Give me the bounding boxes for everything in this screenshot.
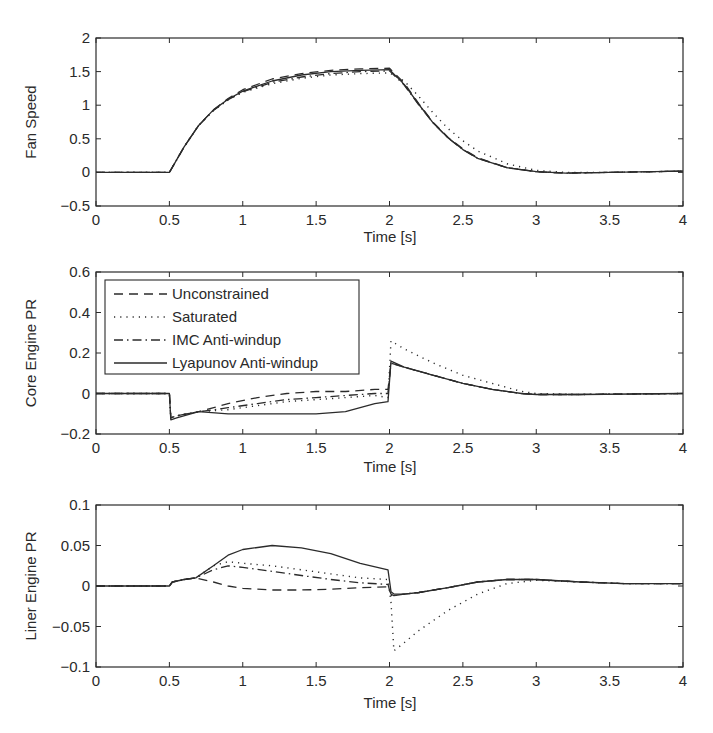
x-tick-label: 0 [92, 672, 100, 689]
x-tick-label: 4 [679, 211, 687, 228]
x-tick-label: 0 [92, 439, 100, 456]
x-tick-label: 2 [385, 672, 393, 689]
x-tick-label: 2.5 [452, 439, 473, 456]
series-line-imc-anti-windup [96, 71, 683, 173]
legend-label-imc: IMC Anti-windup [172, 331, 281, 348]
x-tick-label: 1 [239, 672, 247, 689]
y-tick-label: 0.5 [69, 130, 90, 147]
subplot-core-engine-pr: 00.511.522.533.54−0.200.20.40.6 Core Eng… [22, 263, 687, 475]
y-tick-label: −0.05 [52, 618, 90, 635]
y-tick-label: −0.1 [60, 658, 90, 675]
y-tick-label: 0 [82, 385, 90, 402]
legend-label-lyapunov: Lyapunov Anti-windup [172, 354, 318, 371]
y-tick-label: 0.05 [61, 537, 90, 554]
x-tick-label: 1.5 [306, 211, 327, 228]
x-axis-label: Time [s] [364, 458, 417, 475]
x-tick-label: 0 [92, 211, 100, 228]
legend: Unconstrained Saturated IMC Anti-windup … [105, 280, 359, 374]
series-line-lyapunov-anti-windup [96, 70, 683, 174]
legend-label-unconstrained: Unconstrained [172, 285, 269, 302]
x-axis-label: Time [s] [364, 694, 417, 711]
y-axis-label: Core Engine PR [22, 299, 39, 408]
legend-label-saturated: Saturated [172, 308, 237, 325]
x-tick-label: 3 [532, 439, 540, 456]
x-tick-label: 0.5 [159, 211, 180, 228]
figure-canvas: 00.511.522.533.54−0.500.511.52 Fan Speed… [0, 0, 713, 733]
x-axis-label: Time [s] [364, 228, 417, 245]
x-tick-label: 0.5 [159, 439, 180, 456]
y-tick-label: 0 [82, 577, 90, 594]
x-tick-label: 4 [679, 672, 687, 689]
series-line-saturated [96, 562, 683, 651]
x-tick-label: 2 [385, 439, 393, 456]
x-tick-label: 3 [532, 211, 540, 228]
axis-ticks: 00.511.522.533.54−0.1−0.0500.050.1 [52, 496, 687, 689]
x-tick-label: 3 [532, 672, 540, 689]
x-tick-label: 3.5 [599, 211, 620, 228]
y-tick-label: 1.5 [69, 63, 90, 80]
series-line-lyapunov-anti-windup [96, 546, 683, 595]
series-line-saturated [96, 73, 683, 172]
y-tick-label: −0.2 [60, 425, 90, 442]
y-tick-label: 0.6 [69, 263, 90, 280]
plot-lines [96, 68, 683, 173]
axis-ticks: 00.511.522.533.54−0.500.511.52 [60, 29, 687, 228]
subplot-fan-speed: 00.511.522.533.54−0.500.511.52 Fan Speed… [22, 29, 687, 245]
series-line-unconstrained [96, 68, 683, 173]
y-tick-label: 0.4 [69, 304, 90, 321]
x-tick-label: 2.5 [452, 672, 473, 689]
x-tick-label: 3.5 [599, 672, 620, 689]
x-tick-label: 3.5 [599, 439, 620, 456]
subplot-liner-engine-pr: 00.511.522.533.54−0.1−0.0500.050.1 Liner… [22, 496, 687, 711]
y-axis-label: Fan Speed [22, 85, 39, 158]
plot-frame [96, 505, 683, 667]
x-tick-label: 1 [239, 211, 247, 228]
plot-frame [96, 38, 683, 206]
x-tick-label: 1 [239, 439, 247, 456]
x-tick-label: 2 [385, 211, 393, 228]
y-tick-label: 0 [82, 163, 90, 180]
y-tick-label: 0.1 [69, 496, 90, 513]
y-tick-label: 1 [82, 96, 90, 113]
x-tick-label: 0.5 [159, 672, 180, 689]
y-tick-label: 2 [82, 29, 90, 46]
x-tick-label: 2.5 [452, 211, 473, 228]
plot-lines [96, 546, 683, 651]
x-tick-label: 1.5 [306, 439, 327, 456]
x-tick-label: 4 [679, 439, 687, 456]
y-tick-label: −0.5 [60, 197, 90, 214]
y-axis-label: Liner Engine PR [22, 531, 39, 640]
y-tick-label: 0.2 [69, 344, 90, 361]
x-tick-label: 1.5 [306, 672, 327, 689]
